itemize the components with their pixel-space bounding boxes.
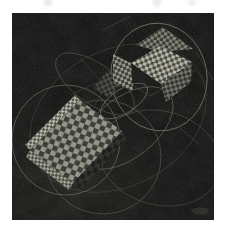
dark-photo-area: [0, 13, 227, 231]
margin-smudge: [44, 0, 53, 7]
margin-smudge: [153, 0, 162, 7]
photo-page: [0, 0, 227, 231]
margin-smudge: [188, 0, 196, 6]
rendered-3d-scene: [0, 0, 227, 231]
mottle-overlay: [12, 13, 214, 220]
